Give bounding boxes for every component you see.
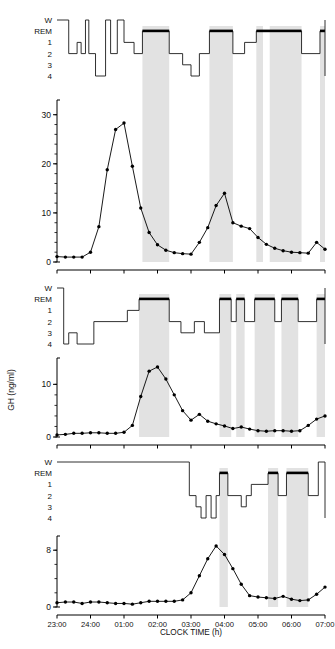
- stage-label-1: 1: [48, 38, 53, 47]
- gh-axis-1: 0102030: [42, 100, 60, 267]
- gh-data-point: [72, 432, 75, 435]
- stage-label-3: 3: [48, 329, 53, 338]
- gh-data-point: [298, 429, 301, 432]
- rem-band-group-2: [139, 294, 325, 437]
- figure-root: WREM12340102030WREM1234010WREM12340823:0…: [0, 0, 335, 649]
- gh-data-point: [214, 204, 217, 207]
- gh-markers-3: [55, 544, 326, 606]
- x-axis-1: [57, 270, 325, 274]
- gh-data-point: [315, 593, 318, 596]
- gh-data-point: [290, 430, 293, 433]
- rem-band: [209, 26, 232, 262]
- rem-bar: [268, 472, 278, 475]
- rem-bar: [256, 30, 301, 33]
- rem-bar: [320, 30, 325, 33]
- x-tick-label: 07:00: [315, 620, 334, 629]
- gh-data-point: [281, 595, 284, 598]
- gh-line-3: [57, 546, 325, 604]
- gh-data-point: [89, 600, 92, 603]
- y-tick-label: 10: [42, 379, 52, 389]
- rem-band: [219, 468, 227, 607]
- gh-data-point: [265, 430, 268, 433]
- stage-label-REM: REM: [34, 27, 52, 36]
- rem-bar: [219, 472, 227, 475]
- gh-data-point: [240, 224, 243, 227]
- stage-label-W: W: [44, 284, 52, 293]
- gh-data-point: [181, 252, 184, 255]
- gh-data-point: [231, 567, 234, 570]
- gh-axis-3: 08: [46, 536, 60, 612]
- gh-data-point: [89, 250, 92, 253]
- gh-data-point: [80, 432, 83, 435]
- gh-data-point: [64, 600, 67, 603]
- gh-data-point: [198, 574, 201, 577]
- gh-data-point: [164, 249, 167, 252]
- gh-data-point: [55, 255, 58, 258]
- gh-data-point: [156, 600, 159, 603]
- gh-data-point: [273, 247, 276, 250]
- gh-data-point: [323, 585, 326, 588]
- gh-data-point: [114, 432, 117, 435]
- rem-band: [320, 26, 325, 262]
- gh-data-point: [256, 595, 259, 598]
- rem-bar: [281, 298, 298, 301]
- gh-data-point: [147, 231, 150, 234]
- gh-data-point: [323, 414, 326, 417]
- gh-data-point: [114, 602, 117, 605]
- gh-data-point: [156, 243, 159, 246]
- rem-band: [255, 294, 275, 437]
- gh-data-point: [131, 602, 134, 605]
- gh-data-point: [248, 227, 251, 230]
- gh-data-point: [231, 427, 234, 430]
- y-tick-label: 20: [42, 159, 52, 169]
- stage-label-1: 1: [48, 480, 53, 489]
- rem-bar: [142, 30, 169, 33]
- gh-data-point: [240, 583, 243, 586]
- stage-label-2: 2: [48, 50, 53, 59]
- gh-data-point: [307, 251, 310, 254]
- gh-data-point: [181, 598, 184, 601]
- x-tick-label: 01:00: [114, 620, 133, 629]
- x-axis-2: [57, 445, 325, 449]
- gh-data-point: [214, 422, 217, 425]
- gh-data-point: [97, 225, 100, 228]
- gh-data-point: [198, 241, 201, 244]
- rem-band: [268, 468, 278, 607]
- hypnogram-trace-3: [57, 462, 325, 518]
- gh-data-point: [273, 429, 276, 432]
- stage-label-1: 1: [48, 306, 53, 315]
- rem-bar: [236, 298, 244, 301]
- rem-band: [219, 294, 231, 437]
- y-tick-label: 0: [46, 257, 51, 267]
- gh-data-point: [164, 600, 167, 603]
- gh-data-point: [281, 429, 284, 432]
- rem-bar: [219, 298, 231, 301]
- y-tick-label: 0: [46, 602, 51, 612]
- stage-label-W: W: [44, 458, 52, 467]
- stage-label-2: 2: [48, 492, 53, 501]
- gh-data-point: [223, 424, 226, 427]
- stage-label-4: 4: [48, 72, 53, 81]
- gh-data-point: [122, 602, 125, 605]
- panel-2: WREM1234010: [34, 284, 326, 449]
- gh-data-point: [273, 597, 276, 600]
- panel-1: WREM12340102030: [34, 16, 326, 274]
- stage-label-3: 3: [48, 61, 53, 70]
- gh-data-point: [223, 553, 226, 556]
- gh-data-point: [106, 432, 109, 435]
- rem-band: [236, 294, 244, 437]
- gh-data-point: [139, 206, 142, 209]
- rem-bar: [317, 298, 325, 301]
- gh-data-point: [131, 165, 134, 168]
- stage-label-W: W: [44, 16, 52, 25]
- rem-bar: [255, 298, 275, 301]
- gh-data-point: [147, 600, 150, 603]
- stage-label-REM: REM: [34, 295, 52, 304]
- x-tick-label: 05:00: [248, 620, 267, 629]
- hypnogram-stage-labels-2: WREM1234: [34, 284, 52, 349]
- gh-data-point: [122, 121, 125, 124]
- figure-svg: WREM12340102030WREM1234010WREM12340823:0…: [0, 0, 335, 649]
- stage-label-2: 2: [48, 318, 53, 327]
- gh-axis-2: 010: [42, 358, 60, 442]
- gh-data-point: [139, 601, 142, 604]
